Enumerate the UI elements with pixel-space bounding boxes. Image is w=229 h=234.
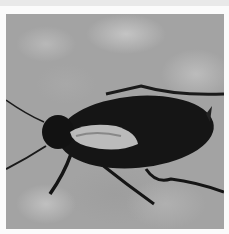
cockroach-photo [6,14,224,229]
top-band [0,0,229,6]
cockroach-illustration [6,14,224,229]
